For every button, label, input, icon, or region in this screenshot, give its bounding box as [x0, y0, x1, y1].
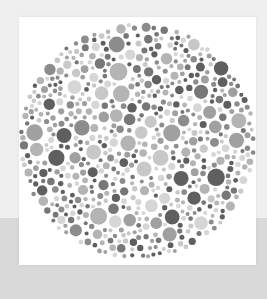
plate-dot	[147, 94, 151, 98]
plate-dot	[166, 174, 172, 180]
plate-dot	[233, 150, 237, 154]
plate-dot	[104, 174, 108, 178]
plate-dot	[110, 99, 115, 104]
plate-dot	[133, 230, 137, 234]
plate-dot	[163, 90, 169, 96]
plate-dot	[78, 98, 82, 102]
plate-dot	[229, 109, 234, 114]
plate-dot	[194, 216, 208, 230]
plate-dot	[127, 231, 131, 235]
plate-dot	[240, 149, 244, 153]
plate-dot	[67, 183, 72, 188]
plate-dot	[225, 154, 230, 159]
plate-dot	[130, 175, 135, 180]
plate-dot	[72, 173, 79, 180]
plate-dot	[150, 89, 154, 93]
plate-dot	[86, 108, 93, 115]
plate-dot	[189, 238, 196, 245]
plate-dot	[68, 80, 82, 94]
plate-dot	[64, 73, 68, 77]
plate-dot	[136, 223, 141, 228]
plate-dot	[242, 97, 248, 103]
plate-dot	[109, 244, 116, 251]
plate-dot	[247, 122, 251, 126]
plate-dot	[233, 178, 238, 183]
plate-dot	[119, 55, 124, 60]
plate-dot	[53, 89, 58, 94]
plate-dot	[69, 152, 80, 163]
plate-dot	[174, 41, 178, 45]
plate-dot	[47, 178, 55, 186]
plate-dot	[74, 49, 79, 54]
plate-dot	[121, 103, 127, 109]
plate-dot	[217, 150, 221, 154]
plate-dot	[177, 159, 181, 163]
plate-dot	[81, 92, 85, 96]
plate-dot	[92, 83, 97, 88]
plate-dot	[112, 82, 116, 86]
plate-dot	[46, 112, 50, 116]
plate-dot	[228, 88, 238, 98]
plate-dot	[197, 207, 202, 212]
plate-dot	[54, 169, 59, 174]
plate-dot	[205, 130, 209, 134]
plate-dot	[119, 227, 124, 232]
plate-dot	[90, 190, 94, 194]
plate-dot	[135, 126, 148, 139]
plate-dot	[69, 200, 73, 204]
plate-dot	[93, 230, 103, 240]
plate-dot	[48, 83, 52, 87]
plate-dot	[103, 234, 108, 239]
plate-dot	[85, 232, 89, 236]
plate-dot	[116, 171, 120, 175]
plate-dot	[226, 202, 235, 211]
plate-dot	[174, 59, 178, 63]
plate-dot	[44, 143, 48, 147]
plate-dot	[41, 179, 45, 183]
plate-dot	[33, 84, 37, 88]
plate-dot	[128, 84, 134, 90]
plate-dot	[218, 77, 228, 87]
plate-dot	[78, 140, 83, 145]
plate-dot	[214, 61, 228, 75]
plate-dot	[186, 212, 190, 216]
plate-dot	[41, 86, 48, 93]
plate-dot	[181, 200, 185, 204]
plate-dot	[229, 82, 233, 86]
plate-dot	[162, 247, 166, 251]
plate-dot	[97, 201, 102, 206]
plate-dot	[245, 152, 250, 157]
plate-dot	[171, 72, 179, 80]
plate-dot	[181, 189, 187, 195]
plate-dot	[169, 202, 173, 206]
plate-dot	[168, 163, 175, 170]
plate-dot	[164, 109, 170, 115]
plate-dot	[200, 144, 208, 152]
plate-dot	[29, 109, 34, 114]
plate-dot	[188, 216, 193, 221]
plate-dot	[191, 113, 195, 117]
plate-dot	[171, 156, 176, 161]
plate-dot	[219, 114, 226, 121]
plate-dot	[158, 175, 164, 181]
plate-dot	[85, 141, 90, 146]
plate-dot	[229, 133, 244, 148]
plate-dot	[97, 249, 102, 254]
plate-dot	[135, 82, 140, 87]
plate-dot	[154, 167, 158, 171]
plate-dot	[211, 82, 216, 87]
plate-dot	[196, 63, 205, 72]
plate-dot	[70, 211, 75, 216]
plate-dot	[154, 38, 158, 42]
plate-dot	[156, 186, 161, 191]
plate-dot	[162, 168, 166, 172]
plate-dot	[117, 239, 121, 243]
plate-dot	[30, 143, 43, 156]
plate-dot	[44, 119, 49, 124]
plate-dot	[72, 69, 81, 78]
plate-dot	[48, 150, 64, 166]
plate-dot	[120, 187, 128, 195]
plate-dot	[198, 136, 203, 141]
plate-dot	[92, 43, 100, 51]
plate-dot	[36, 161, 40, 165]
